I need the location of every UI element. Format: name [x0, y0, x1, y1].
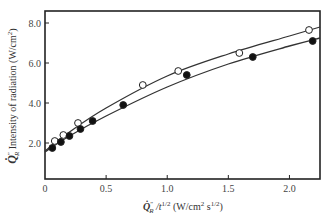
x-tick-label: 0 — [43, 183, 48, 194]
x-tick-label: 0.5 — [100, 183, 113, 194]
x-axis-ticks: 00.51.01.52.0 — [43, 175, 296, 194]
filled-circle-marker — [49, 145, 56, 152]
y-tick-label: 6.0 — [29, 58, 42, 69]
filled-circle-marker — [89, 118, 96, 125]
open-circle-marker — [139, 82, 146, 89]
y-tick-label: 2.0 — [29, 138, 42, 149]
chart: 00.51.01.52.0 2.04.06.08.0 Q̇″R /t1/2 (W… — [0, 0, 334, 224]
x-tick-label: 1.5 — [222, 183, 235, 194]
open-circle-marker — [306, 27, 313, 34]
filled-circle-marker — [77, 126, 84, 133]
y-tick-label: 8.0 — [29, 18, 42, 29]
plot-frame — [45, 11, 320, 179]
x-tick-label: 2.0 — [283, 183, 296, 194]
filled-circle-marker — [183, 72, 190, 79]
filled-circle-marker — [57, 139, 64, 146]
y-tick-label: 4.0 — [29, 98, 42, 109]
x-axis-label: Q̇″R /t1/2 (W/cm2 s1/2) — [143, 200, 223, 215]
y-axis-ticks: 2.04.06.08.0 — [29, 18, 50, 149]
filled-circle-marker — [120, 102, 127, 109]
filled-circle-marker — [249, 54, 256, 61]
filled-circle-marker — [309, 38, 316, 45]
x-tick-label: 1.0 — [161, 183, 174, 194]
fit-curves — [45, 27, 320, 152]
fit-curve — [45, 38, 320, 152]
data-points — [49, 27, 316, 152]
open-circle-marker — [236, 50, 243, 57]
filled-circle-marker — [66, 133, 73, 140]
fit-curve — [45, 27, 320, 151]
open-circle-marker — [175, 68, 182, 75]
y-axis-label: Q̇″R Intensity of radiation (W/cm2) — [5, 28, 21, 163]
